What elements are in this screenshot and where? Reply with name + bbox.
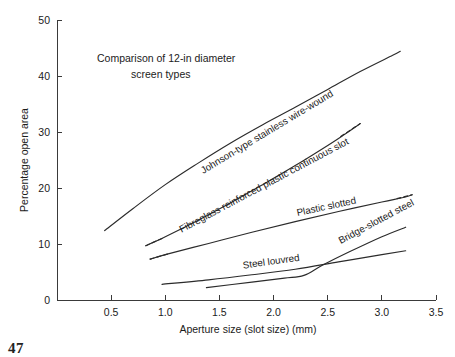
x-tick-label: 1.5: [212, 306, 227, 318]
x-axis-ticks: 0.51.01.52.02.53.03.5: [104, 295, 444, 318]
series-curve-dashed-extension: [150, 254, 167, 259]
y-axis-ticks: 01020304050: [38, 14, 62, 306]
y-tick-label: 30: [38, 126, 50, 138]
x-tick-label: 1.0: [158, 306, 173, 318]
y-tick-label: 50: [38, 14, 50, 26]
y-tick-label: 10: [38, 238, 50, 250]
x-tick-label: 3.5: [429, 306, 444, 318]
page-number: 47: [8, 340, 24, 357]
series-curve-dashed-extension: [146, 238, 162, 245]
chart-title-line-2: screen types: [131, 68, 191, 80]
x-axis-title: Aperture size (slot size) (mm): [179, 323, 316, 335]
y-tick-label: 20: [38, 182, 50, 194]
x-tick-label: 3.0: [375, 306, 390, 318]
series-label: Steel louvred: [242, 252, 300, 271]
series-lines-group: [105, 51, 413, 287]
y-tick-label: 0: [44, 294, 50, 306]
chart-title-line-1: Comparison of 12-in diameter: [97, 52, 236, 64]
y-axis-title: Percentage open area: [18, 108, 30, 212]
series-label: Fibreglass reinforced plastic continuous…: [177, 136, 350, 235]
x-tick-label: 2.5: [320, 306, 335, 318]
y-tick-label: 40: [38, 70, 50, 82]
series-labels-group: Johnson-type stainless wire-woundFibregl…: [177, 88, 415, 271]
x-tick-label: 0.5: [104, 306, 119, 318]
x-tick-label: 2.0: [266, 306, 281, 318]
